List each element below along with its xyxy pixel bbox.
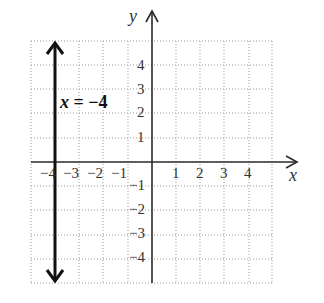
equation-label: x = −4 — [59, 92, 108, 112]
y-tick-labels: 4 3 2 1 −1 −2 −3 −4 — [129, 57, 145, 265]
x-tick-1: 1 — [172, 165, 180, 181]
coordinate-plane: y x x = −4 −4 −3 −2 −1 1 2 3 4 4 3 2 1 −… — [0, 0, 324, 303]
y-axis — [146, 11, 158, 283]
x-tick-neg3: −3 — [63, 165, 79, 181]
x-tick-neg4: −4 — [40, 165, 56, 181]
y-tick-neg4: −4 — [129, 249, 145, 265]
y-tick-neg3: −3 — [129, 225, 145, 241]
y-tick-4: 4 — [137, 57, 145, 73]
y-tick-2: 2 — [137, 104, 145, 120]
x-tick-2: 2 — [196, 165, 204, 181]
y-axis-label: y — [127, 6, 137, 26]
y-tick-3: 3 — [137, 81, 145, 97]
x-tick-neg2: −2 — [87, 165, 103, 181]
x-tick-labels: −4 −3 −2 −1 1 2 3 4 — [40, 165, 252, 181]
x-tick-neg1: −1 — [111, 165, 127, 181]
y-tick-neg2: −2 — [129, 201, 145, 217]
y-tick-neg1: −1 — [129, 177, 145, 193]
x-tick-3: 3 — [220, 165, 228, 181]
x-axis-label: x — [288, 165, 297, 185]
x-tick-4: 4 — [244, 165, 252, 181]
y-tick-1: 1 — [137, 129, 145, 145]
